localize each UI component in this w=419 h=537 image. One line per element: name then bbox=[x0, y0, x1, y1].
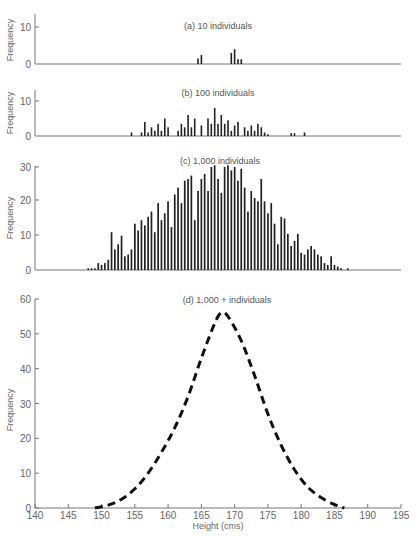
histogram-bar bbox=[297, 234, 299, 270]
histogram-bar bbox=[234, 167, 236, 270]
height-distribution-figure: 10 0 Frequency (a) 10 individuals 10 0 F… bbox=[0, 0, 419, 537]
histogram-bar bbox=[131, 133, 133, 137]
histogram-bar bbox=[191, 127, 193, 136]
xtick-195: 195 bbox=[393, 510, 410, 521]
histogram-bar bbox=[237, 122, 239, 136]
histogram-bar bbox=[197, 191, 199, 270]
histogram-bar bbox=[240, 169, 242, 270]
histogram-bar bbox=[117, 244, 119, 270]
histogram-bar bbox=[97, 263, 99, 270]
xtick-150: 150 bbox=[93, 510, 110, 521]
histogram-bar bbox=[164, 119, 166, 137]
histogram-bar bbox=[327, 265, 329, 270]
ytick-0: 0 bbox=[25, 131, 31, 142]
histogram-bar bbox=[284, 219, 286, 271]
histogram-bar bbox=[174, 195, 176, 271]
histogram-bar bbox=[254, 131, 256, 136]
histogram-bar bbox=[231, 170, 233, 270]
histogram-bar bbox=[161, 131, 163, 136]
histogram-bar bbox=[131, 249, 133, 270]
histogram-bar bbox=[181, 203, 183, 270]
histogram-bar bbox=[340, 268, 342, 270]
ytick-10: 10 bbox=[20, 468, 32, 479]
histogram-bar bbox=[157, 203, 159, 270]
histogram-bar bbox=[104, 263, 106, 270]
histogram-bar bbox=[337, 267, 339, 270]
ytick-0: 0 bbox=[25, 265, 31, 276]
y-axis-label: Frequency bbox=[5, 388, 15, 431]
histogram-bar bbox=[111, 232, 113, 270]
histogram-bar bbox=[94, 268, 96, 270]
histogram-bar bbox=[197, 59, 199, 65]
histogram-bar bbox=[217, 179, 219, 270]
xtick-160: 160 bbox=[160, 510, 177, 521]
histogram-bar bbox=[214, 108, 216, 136]
histogram-bar bbox=[304, 255, 306, 270]
histogram-bar bbox=[330, 256, 332, 270]
panel-d: 0102030405060 14014515015516016517017518… bbox=[5, 294, 410, 531]
ytick-40: 40 bbox=[20, 364, 32, 375]
panel-b-title: (b) 100 individuals bbox=[181, 88, 255, 98]
histogram-bar bbox=[101, 265, 103, 270]
histogram-bar bbox=[211, 124, 213, 136]
histogram-bar bbox=[244, 188, 246, 270]
histogram-bar bbox=[237, 59, 239, 64]
histogram-bar bbox=[224, 124, 226, 136]
ytick-50: 50 bbox=[20, 329, 32, 340]
panel-a: 10 0 Frequency (a) 10 individuals bbox=[5, 14, 401, 70]
panel-a-title: (a) 10 individuals bbox=[184, 21, 253, 31]
y-axis-label: Frequency bbox=[5, 91, 15, 134]
histogram-bar bbox=[280, 217, 282, 270]
histogram-bar bbox=[310, 246, 312, 270]
histogram-bar bbox=[347, 268, 349, 270]
y-axis-label: Frequency bbox=[5, 18, 15, 61]
histogram-bar bbox=[320, 256, 322, 270]
histogram-bar bbox=[227, 120, 229, 136]
histogram-bar bbox=[304, 133, 306, 137]
histogram-bar bbox=[257, 201, 259, 270]
histogram-bar bbox=[201, 126, 203, 137]
histogram-bar bbox=[164, 213, 166, 270]
histogram-bar bbox=[147, 133, 149, 137]
histogram-bar bbox=[187, 179, 189, 270]
histogram-bar bbox=[127, 255, 129, 270]
histogram-bar bbox=[204, 174, 206, 270]
histogram-bar bbox=[144, 122, 146, 136]
histogram-bar bbox=[181, 124, 183, 136]
histogram-bar bbox=[167, 201, 169, 270]
histogram-bar bbox=[234, 126, 236, 137]
histogram-bar bbox=[107, 260, 109, 270]
histogram-bar bbox=[154, 131, 156, 136]
histogram-bar bbox=[227, 165, 229, 270]
histogram-bar bbox=[307, 249, 309, 270]
histogram-bar bbox=[267, 134, 269, 136]
xtick-140: 140 bbox=[27, 510, 44, 521]
xtick-145: 145 bbox=[60, 510, 77, 521]
histogram-bar bbox=[317, 255, 319, 270]
histogram-bar bbox=[257, 124, 259, 136]
histogram-bar bbox=[244, 127, 246, 136]
histogram-bar bbox=[294, 133, 296, 136]
histogram-bar bbox=[221, 115, 223, 136]
histogram-bar bbox=[184, 127, 186, 136]
histogram-bar bbox=[177, 188, 179, 270]
histogram-bar bbox=[251, 126, 253, 137]
histogram-bar bbox=[211, 167, 213, 270]
xtick-190: 190 bbox=[359, 510, 376, 521]
histogram-bar bbox=[261, 127, 263, 136]
histogram-bar bbox=[314, 249, 316, 270]
histogram-bar bbox=[221, 193, 223, 270]
xtick-170: 170 bbox=[226, 510, 243, 521]
xtick-180: 180 bbox=[293, 510, 310, 521]
histogram-bar bbox=[300, 253, 302, 270]
histogram-bar bbox=[231, 131, 233, 136]
histogram-bar bbox=[260, 179, 262, 270]
histogram-bar bbox=[217, 124, 219, 136]
histogram-bar bbox=[214, 165, 216, 270]
histogram-bar bbox=[144, 225, 146, 270]
xtick-155: 155 bbox=[126, 510, 143, 521]
histogram-bar bbox=[247, 131, 249, 136]
histogram-bar bbox=[250, 191, 252, 270]
histogram-bar bbox=[201, 179, 203, 270]
histogram-bar bbox=[334, 265, 336, 270]
